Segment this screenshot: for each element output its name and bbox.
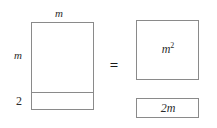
- left-figure-left-lower-label: 2: [16, 95, 22, 107]
- equals-operator: =: [106, 58, 122, 72]
- left-rectangle-divider-line: [31, 92, 94, 93]
- diagram-canvas: m m 2 = m2 2m: [0, 0, 217, 128]
- left-composite-rectangle: [31, 22, 94, 110]
- left-figure-left-upper-label: m: [14, 50, 22, 61]
- m-squared-expression: m2: [136, 43, 200, 55]
- left-figure-top-label: m: [55, 8, 63, 19]
- two-m-expression: 2m: [136, 102, 200, 114]
- m-squared-exponent: 2: [170, 41, 174, 50]
